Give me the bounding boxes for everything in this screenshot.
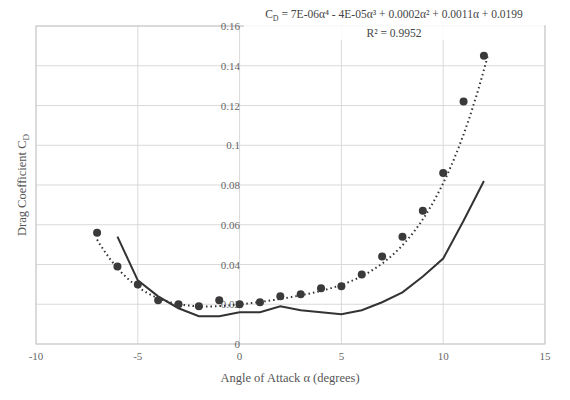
- r-squared-text: R² = 0.9952: [244, 26, 544, 40]
- y-axis-title: Drag Coefficient CD: [15, 133, 31, 236]
- x-axis-title: Angle of Attack α (degrees): [220, 371, 359, 385]
- data-point: [134, 280, 142, 288]
- x-tick-label: 0: [237, 350, 243, 362]
- drag-coefficient-chart: 00.020.040.060.080.10.120.140.16 -10-505…: [0, 0, 570, 400]
- y-tick-label: 0.1: [226, 139, 240, 151]
- equation-text: CD = 7E-06α⁴ - 4E-05α³ + 0.0002α² + 0.00…: [244, 7, 544, 26]
- polynomial-trendline: [97, 55, 488, 307]
- y-tick-label: 0.06: [221, 219, 241, 231]
- data-point: [398, 233, 406, 241]
- y-tick-label: 0.14: [221, 60, 241, 72]
- data-point: [256, 298, 264, 306]
- x-tick-label: 5: [339, 350, 345, 362]
- x-tick-label: 15: [540, 350, 552, 362]
- data-point: [460, 98, 468, 106]
- x-axis-ticks: -10-5051015: [29, 350, 551, 362]
- data-point: [439, 169, 447, 177]
- data-point: [317, 284, 325, 292]
- data-point: [175, 300, 183, 308]
- data-point: [113, 262, 121, 270]
- y-tick-label: 0.08: [221, 179, 241, 191]
- y-axis-ticks: 00.020.040.060.080.10.120.140.16: [221, 20, 241, 350]
- x-tick-label: -5: [133, 350, 143, 362]
- data-point: [276, 292, 284, 300]
- data-point: [419, 207, 427, 215]
- data-point: [154, 296, 162, 304]
- gridlines: [36, 26, 545, 344]
- trendline-equation: CD = 7E-06α⁴ - 4E-05α³ + 0.0002α² + 0.00…: [244, 7, 544, 40]
- data-point: [297, 290, 305, 298]
- data-point: [93, 229, 101, 237]
- y-tick-label: 0.04: [221, 259, 241, 271]
- data-point: [378, 253, 386, 261]
- data-point: [480, 52, 488, 60]
- x-tick-label: -10: [29, 350, 44, 362]
- data-point: [358, 270, 366, 278]
- data-point: [236, 300, 244, 308]
- y-tick-label: 0: [235, 338, 241, 350]
- y-tick-label: 0.12: [221, 100, 240, 112]
- y-tick-label: 0.16: [221, 20, 241, 32]
- data-point: [195, 302, 203, 310]
- data-point: [215, 296, 223, 304]
- x-tick-label: 10: [438, 350, 450, 362]
- data-point: [337, 282, 345, 290]
